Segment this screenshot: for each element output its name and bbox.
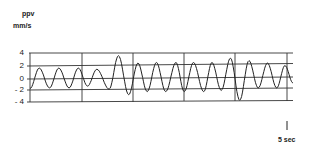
waveform-line — [30, 56, 293, 101]
gridlines — [27, 53, 293, 102]
waveform-chart — [0, 0, 311, 152]
timescale-label: 5 sec — [278, 136, 296, 143]
